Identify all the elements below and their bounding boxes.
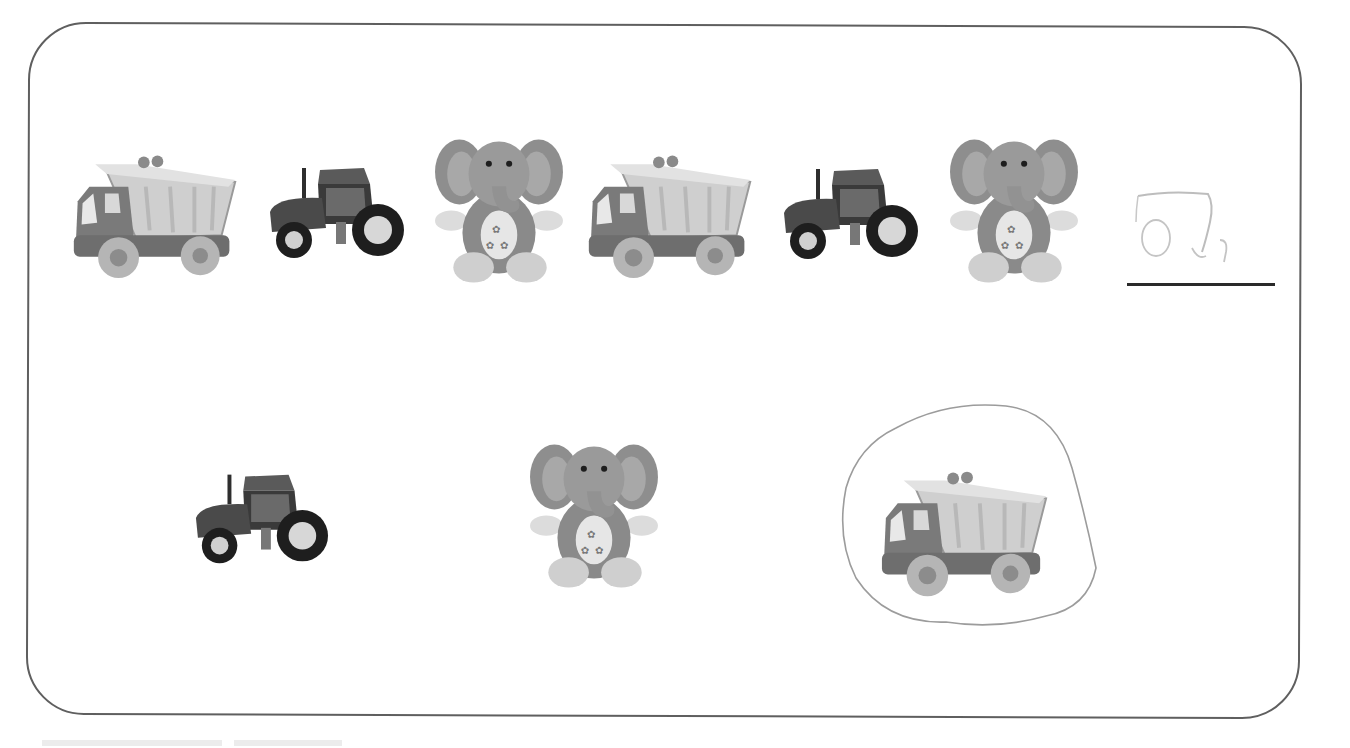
pattern-item-2 (266, 157, 406, 267)
tractor-icon (780, 158, 920, 268)
hand-drawn-selection-circle (836, 398, 1098, 630)
elephant-plush-icon (433, 132, 565, 287)
pattern-item-4 (583, 140, 758, 282)
elephant-plush-icon (948, 132, 1080, 287)
elephant-plush-icon (528, 437, 660, 592)
dump-truck-icon (583, 140, 758, 282)
footer-text (42, 740, 342, 746)
worksheet-frame (26, 22, 1302, 719)
pattern-item-3 (433, 132, 565, 287)
tractor-icon (266, 157, 406, 267)
dump-truck-icon (68, 140, 243, 282)
choice-tractor[interactable] (192, 462, 330, 574)
pattern-item-1 (68, 140, 243, 282)
handwritten-truck-sketch (1130, 182, 1240, 272)
pattern-item-5 (780, 158, 920, 268)
pattern-item-6 (948, 132, 1080, 287)
answer-line[interactable] (1127, 283, 1275, 286)
choice-elephant-plush[interactable] (528, 437, 660, 592)
tractor-icon (192, 462, 330, 574)
